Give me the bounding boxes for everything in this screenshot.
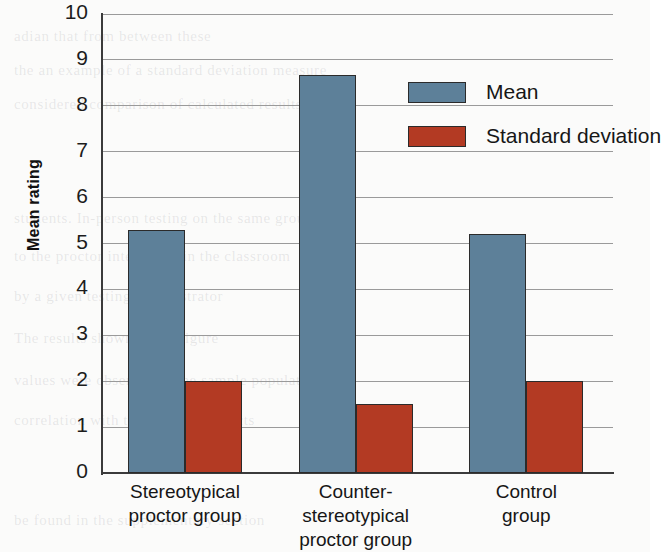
y-axis-line <box>101 13 103 475</box>
y-axis-tick-label: 4 <box>0 275 88 299</box>
x-axis-category-label: Counter-stereotypicalproctor group <box>261 480 451 552</box>
bar[interactable] <box>356 404 413 473</box>
y-axis-tick-label: 3 <box>0 321 88 345</box>
bar[interactable] <box>526 381 583 473</box>
legend-swatch-mean <box>408 82 466 103</box>
x-axis-label-line: Counter- <box>261 480 451 504</box>
y-axis-tick-label: 2 <box>0 367 88 391</box>
x-axis-category-label: Stereotypicalproctor group <box>90 480 280 528</box>
bar[interactable] <box>299 75 356 473</box>
x-axis-label-line: group <box>431 504 621 528</box>
gridline <box>101 197 613 198</box>
x-axis-label-line: proctor group <box>261 528 451 552</box>
y-axis-tick-label: 1 <box>0 413 88 437</box>
bar[interactable] <box>185 381 242 473</box>
x-axis-category-label: Controlgroup <box>431 480 621 528</box>
x-axis-label-line: Control <box>431 480 621 504</box>
legend-item-standard-deviation[interactable]: Standard deviation <box>408 114 661 158</box>
y-axis-tick-label: 9 <box>0 46 88 70</box>
gridline <box>101 14 613 15</box>
y-axis-tick-label: 5 <box>0 230 88 254</box>
bar[interactable] <box>128 230 185 473</box>
y-axis-tick-label: 0 <box>0 459 88 483</box>
x-axis-label-line: proctor group <box>90 504 280 528</box>
legend-swatch-standard-deviation <box>408 126 466 147</box>
legend-label-mean: Mean <box>486 80 539 104</box>
y-axis-tick-label: 6 <box>0 184 88 208</box>
y-axis-tick-label: 10 <box>0 0 88 24</box>
x-axis-label-line: Stereotypical <box>90 480 280 504</box>
x-axis-label-line: stereotypical <box>261 504 451 528</box>
bar[interactable] <box>469 234 526 473</box>
y-axis-tick-label: 7 <box>0 138 88 162</box>
legend-item-mean[interactable]: Mean <box>408 70 661 114</box>
gridline <box>101 59 613 60</box>
y-axis-tick-label: 8 <box>0 92 88 116</box>
legend-label-standard-deviation: Standard deviation <box>486 124 661 148</box>
legend: Mean Standard deviation <box>408 70 661 158</box>
